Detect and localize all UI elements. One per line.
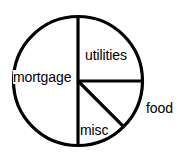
pie-slice-label-food: food: [146, 101, 173, 115]
pie-slice-label-utilities: utilities: [85, 48, 127, 62]
pie-chart: mortgage utilities food misc: [0, 0, 186, 165]
pie-slice-label-misc: misc: [80, 123, 108, 137]
pie-slice-label-mortgage: mortgage: [13, 70, 71, 84]
